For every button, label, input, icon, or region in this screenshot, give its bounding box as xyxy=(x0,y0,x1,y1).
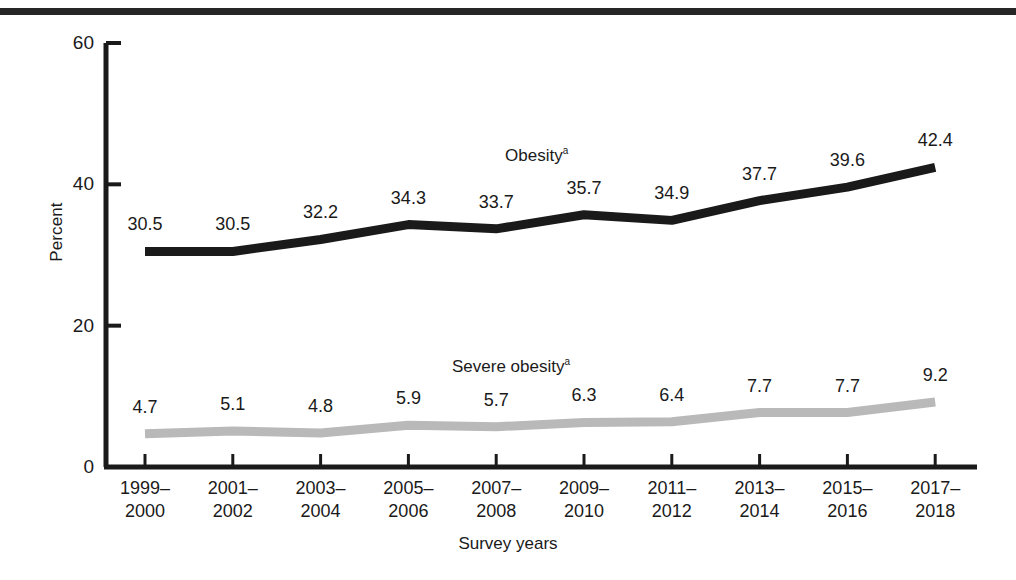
x-tick-label: 2017– 2018 xyxy=(880,477,990,523)
y-tick-label: 60 xyxy=(48,33,94,52)
data-label-obesity: 33.7 xyxy=(456,192,536,212)
data-label-obesity: 30.5 xyxy=(193,214,273,234)
data-label-obesity: 42.4 xyxy=(895,130,975,150)
data-label-obesity: 37.7 xyxy=(720,164,800,184)
data-label-severe-obesity: 5.1 xyxy=(193,394,273,414)
data-label-obesity: 39.6 xyxy=(807,150,887,170)
data-label-obesity: 35.7 xyxy=(544,178,624,198)
data-label-severe-obesity: 7.7 xyxy=(720,376,800,396)
data-label-severe-obesity: 6.3 xyxy=(544,385,624,405)
series-annotation-severe-obesity: Severe obesitya xyxy=(452,357,570,376)
y-tick-label: 20 xyxy=(48,316,94,335)
data-label-severe-obesity: 4.8 xyxy=(281,396,361,416)
footnote-marker: a xyxy=(564,356,570,367)
data-label-severe-obesity: 5.9 xyxy=(368,388,448,408)
plot-area: Percent 0204060 1999– 20002001– 20022003… xyxy=(0,0,1016,580)
x-axis xyxy=(104,454,977,467)
y-tick-label: 0 xyxy=(48,457,94,476)
series-annotation-obesity: Obesitya xyxy=(505,146,568,165)
x-axis-title: Survey years xyxy=(0,534,1016,554)
data-label-obesity: 32.2 xyxy=(281,202,361,222)
y-tick-label: 40 xyxy=(48,174,94,193)
data-label-obesity: 34.3 xyxy=(368,188,448,208)
data-label-severe-obesity: 4.7 xyxy=(105,397,185,417)
figure-obesity-trends: Percent 0204060 1999– 20002001– 20022003… xyxy=(0,0,1016,580)
data-label-obesity: 30.5 xyxy=(105,214,185,234)
footnote-marker: a xyxy=(563,145,569,156)
data-label-severe-obesity: 7.7 xyxy=(807,376,887,396)
data-label-severe-obesity: 6.4 xyxy=(632,385,712,405)
data-label-severe-obesity: 9.2 xyxy=(895,365,975,385)
data-label-obesity: 34.9 xyxy=(632,183,712,203)
series-line-obesity xyxy=(145,167,935,251)
data-label-severe-obesity: 5.7 xyxy=(456,390,536,410)
